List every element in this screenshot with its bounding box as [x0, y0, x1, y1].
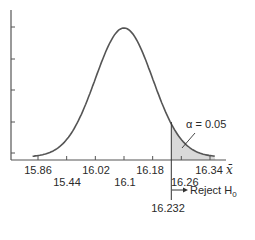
critical-value-label: 16.232: [151, 203, 185, 214]
alpha-label: α = 0.05: [186, 119, 226, 130]
y-axis-ticks: [11, 27, 15, 153]
x-tick-label-16.34: 16.34: [195, 165, 223, 176]
reject-h0-label: Reject H0: [190, 185, 237, 199]
x-tick-label-16.1: 16.1: [114, 177, 135, 188]
x-tick-label-15.44: 15.44: [53, 177, 81, 188]
x-tick-label-15.86: 15.86: [24, 165, 52, 176]
normal-curve: [33, 28, 215, 156]
x-tick-label-16.02: 16.02: [82, 165, 110, 176]
reject-arrowhead: [183, 188, 188, 193]
x-axis-label: x̄: [226, 164, 233, 176]
x-tick-label-16.18: 16.18: [136, 165, 164, 176]
